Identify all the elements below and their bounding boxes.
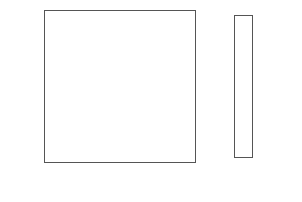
colorbar <box>235 16 252 157</box>
heatmap-grid <box>45 11 195 162</box>
